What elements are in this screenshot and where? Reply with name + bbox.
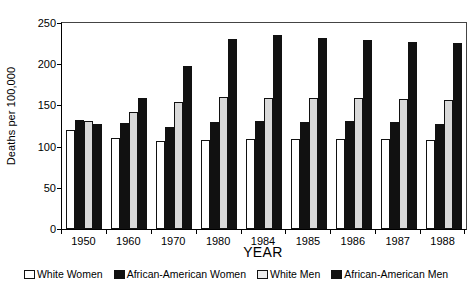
y-axis-title: Deaths per 100,000 bbox=[0, 0, 22, 232]
y-axis-tick-label: 250 bbox=[38, 17, 62, 29]
bar[interactable] bbox=[210, 122, 219, 229]
bar[interactable] bbox=[390, 122, 399, 229]
bar[interactable] bbox=[219, 97, 228, 229]
legend-item[interactable]: African-American Men bbox=[331, 268, 448, 280]
bar[interactable] bbox=[255, 121, 264, 229]
bar[interactable] bbox=[228, 39, 237, 229]
bar[interactable] bbox=[93, 124, 102, 229]
y-axis-title-text: Deaths per 100,000 bbox=[5, 67, 17, 165]
bar[interactable] bbox=[381, 139, 390, 229]
legend-swatch-icon bbox=[24, 270, 35, 279]
bar[interactable] bbox=[426, 140, 435, 229]
bar[interactable] bbox=[201, 140, 210, 229]
bar[interactable] bbox=[174, 102, 183, 229]
legend-label: White Women bbox=[37, 268, 103, 280]
bar-group bbox=[286, 23, 331, 229]
y-axis-tick-label: 100 bbox=[38, 141, 62, 153]
bar[interactable] bbox=[129, 112, 138, 229]
bar[interactable] bbox=[183, 66, 192, 229]
x-axis-end-tick bbox=[464, 229, 465, 234]
bar[interactable] bbox=[345, 121, 354, 229]
bar[interactable] bbox=[156, 141, 165, 229]
bar[interactable] bbox=[309, 98, 318, 229]
bar[interactable] bbox=[66, 130, 75, 229]
bar[interactable] bbox=[138, 98, 147, 229]
bar-group bbox=[152, 23, 197, 229]
bar[interactable] bbox=[363, 40, 372, 229]
legend-label: African-American Women bbox=[127, 268, 246, 280]
chart-figure: Deaths per 100,000 050100150200250 19501… bbox=[0, 0, 472, 290]
bar[interactable] bbox=[300, 122, 309, 229]
legend-swatch-icon bbox=[257, 270, 268, 279]
y-axis-tick-label: 50 bbox=[44, 182, 62, 194]
bar-group bbox=[242, 23, 287, 229]
bar[interactable] bbox=[273, 35, 282, 229]
bar[interactable] bbox=[318, 38, 327, 229]
legend-swatch-icon bbox=[114, 270, 125, 279]
legend-item[interactable]: White Women bbox=[24, 268, 103, 280]
bar[interactable] bbox=[354, 98, 363, 229]
bar[interactable] bbox=[111, 138, 120, 229]
legend-swatch-icon bbox=[331, 270, 342, 279]
bar-group bbox=[62, 23, 107, 229]
bar-group bbox=[197, 23, 242, 229]
bar-group bbox=[107, 23, 152, 229]
bar[interactable] bbox=[435, 124, 444, 229]
bar-group bbox=[421, 23, 466, 229]
bar[interactable] bbox=[84, 121, 93, 229]
bar[interactable] bbox=[336, 139, 345, 229]
bar[interactable] bbox=[453, 43, 462, 229]
bar[interactable] bbox=[399, 99, 408, 229]
bar[interactable] bbox=[246, 139, 255, 229]
bar[interactable] bbox=[120, 123, 129, 229]
legend-item[interactable]: African-American Women bbox=[114, 268, 246, 280]
legend-item[interactable]: White Men bbox=[257, 268, 320, 280]
legend-label: African-American Men bbox=[344, 268, 448, 280]
bar[interactable] bbox=[444, 100, 453, 229]
y-axis-tick-label: 200 bbox=[38, 58, 62, 70]
bar-groups bbox=[62, 23, 466, 229]
x-axis-title: YEAR bbox=[61, 244, 465, 260]
y-axis-tick-label: 150 bbox=[38, 99, 62, 111]
bar[interactable] bbox=[264, 98, 273, 229]
chart-legend: White WomenAfrican-American WomenWhite M… bbox=[0, 268, 472, 280]
bar[interactable] bbox=[291, 139, 300, 229]
bar[interactable] bbox=[165, 127, 174, 229]
plot-area: 050100150200250 bbox=[61, 22, 467, 230]
bar-group bbox=[331, 23, 376, 229]
legend-label: White Men bbox=[270, 268, 320, 280]
bar[interactable] bbox=[75, 120, 84, 229]
bar-group bbox=[376, 23, 421, 229]
bar[interactable] bbox=[408, 42, 417, 229]
